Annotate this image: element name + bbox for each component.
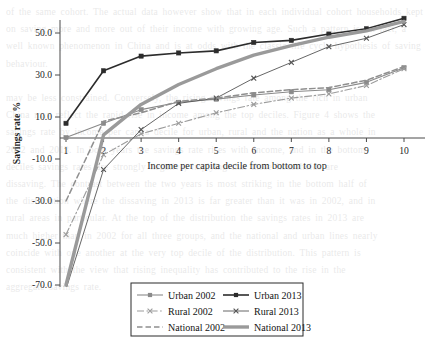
x-tick-label: 6 <box>251 145 256 156</box>
y-tick-label: -70.0 <box>32 279 52 290</box>
legend-label: Urban 2002 <box>168 290 216 301</box>
y-tick-label: -30.0 <box>32 195 52 206</box>
data-point <box>177 51 181 55</box>
legend-label: National 2013 <box>254 322 311 333</box>
legend-marker <box>234 293 238 297</box>
legend-label: National 2002 <box>168 322 225 333</box>
data-point <box>64 232 69 237</box>
series-national-2013 <box>66 21 404 285</box>
legend-label: Urban 2013 <box>254 290 302 301</box>
chart-legend: Urban 2002Urban 2013Rural 2002Rural 2013… <box>131 283 311 336</box>
x-tick-label: 7 <box>289 145 294 156</box>
x-tick-label: 4 <box>176 145 181 156</box>
legend-marker <box>148 293 152 297</box>
y-tick-label: -50.0 <box>32 237 52 248</box>
data-point <box>139 108 143 112</box>
y-tick-label: 30.0 <box>35 69 52 80</box>
x-tick-label: 10 <box>399 145 409 156</box>
y-tick-label: -10.0 <box>32 153 52 164</box>
data-point <box>64 287 69 292</box>
series-urban-2002 <box>64 66 406 140</box>
data-point <box>139 127 144 132</box>
data-point <box>101 167 106 172</box>
data-point <box>64 121 68 125</box>
axes: 50.030.010.0-10.0-30.0-50.0-70.012345678… <box>32 20 425 290</box>
legend-label: Rural 2013 <box>254 306 299 317</box>
data-point <box>289 60 294 65</box>
x-tick-label: 9 <box>364 145 369 156</box>
data-point <box>251 76 256 81</box>
x-tick-label: 3 <box>139 145 144 156</box>
data-point <box>289 38 293 42</box>
series-national-2002 <box>66 67 404 201</box>
data-point <box>214 49 218 53</box>
savings-rate-chart: 50.030.010.0-10.0-30.0-50.0-70.012345678… <box>0 0 431 342</box>
chart-canvas: 50.030.010.0-10.0-30.0-50.0-70.012345678… <box>0 0 431 342</box>
data-point <box>139 54 143 58</box>
y-axis-title: Savings rate % <box>11 102 22 164</box>
y-tick-label: 50.0 <box>35 27 52 38</box>
data-point <box>252 40 256 44</box>
y-tick-label: 10.0 <box>35 111 52 122</box>
legend-label: Rural 2002 <box>168 306 213 317</box>
x-tick-label: 8 <box>326 145 331 156</box>
data-point <box>101 69 105 73</box>
series-layer <box>64 16 407 291</box>
x-tick-label: 1 <box>64 145 69 156</box>
series-rural-2002 <box>64 66 407 237</box>
x-axis-title: Income per capita decile from bottom to … <box>147 160 327 171</box>
x-tick-label: 5 <box>214 145 219 156</box>
data-point <box>64 135 68 139</box>
